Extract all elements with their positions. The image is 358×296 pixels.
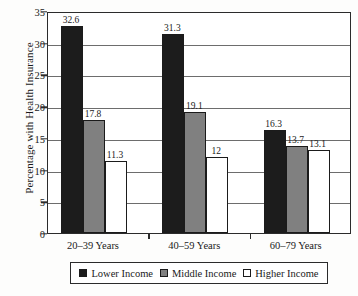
legend-entry: Middle Income	[160, 268, 236, 279]
bar	[184, 112, 206, 233]
bar	[83, 120, 105, 233]
legend-swatch-icon	[79, 269, 87, 277]
x-axis-category-label: 60–79 Years	[270, 240, 322, 251]
bar-value-label: 12	[212, 146, 222, 156]
x-axis-tick-mark	[148, 234, 149, 239]
plot-area	[47, 12, 351, 234]
legend-swatch-icon	[243, 269, 251, 277]
bar	[206, 157, 228, 233]
legend-entry: Higher Income	[243, 268, 318, 279]
legend-label: Lower Income	[91, 268, 153, 279]
bar-value-label: 19.1	[186, 101, 203, 111]
bar	[61, 26, 83, 233]
legend-label: Middle Income	[172, 268, 236, 279]
legend-swatch-icon	[160, 269, 168, 277]
x-axis-tick-mark	[250, 234, 251, 239]
bar	[286, 146, 308, 233]
bar-value-label: 17.8	[85, 109, 102, 119]
legend-entry: Lower Income	[79, 268, 153, 279]
bar-value-label: 16.3	[265, 119, 282, 129]
gridline	[48, 45, 350, 46]
bar-value-label: 13.1	[309, 139, 326, 149]
bar	[162, 34, 184, 233]
bar-value-label: 13.7	[287, 135, 304, 145]
gridline	[48, 76, 350, 77]
bar	[105, 161, 127, 233]
bar-value-label: 32.6	[63, 15, 80, 25]
legend-label: Higher Income	[255, 268, 318, 279]
bar	[308, 150, 330, 233]
chart-legend: Lower IncomeMiddle IncomeHigher Income	[70, 262, 328, 284]
bar-chart-figure: Percentage with Health Insurance 0510152…	[0, 0, 358, 296]
bar	[264, 130, 286, 233]
bar-value-label: 31.3	[164, 23, 181, 33]
x-axis-category-label: 20–39 Years	[67, 240, 119, 251]
x-axis-category-label: 40–59 Years	[168, 240, 220, 251]
bar-value-label: 11.3	[107, 150, 123, 160]
